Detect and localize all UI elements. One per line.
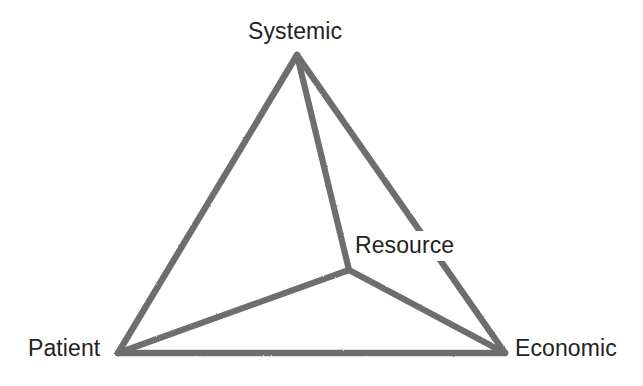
node-label-patient: Patient [28, 337, 100, 360]
node-label-economic: Economic [515, 337, 617, 360]
node-label-resource: Resource [351, 231, 459, 261]
diagram-canvas: Systemic Patient Economic Resource [0, 0, 643, 386]
edge-economic-resource [349, 270, 505, 353]
edge-systemic-economic [297, 55, 505, 353]
diagram-edges-svg [0, 0, 643, 386]
edge-systemic-patient [118, 55, 297, 353]
edge-patient-resource [118, 270, 349, 353]
node-label-systemic: Systemic [248, 20, 342, 43]
